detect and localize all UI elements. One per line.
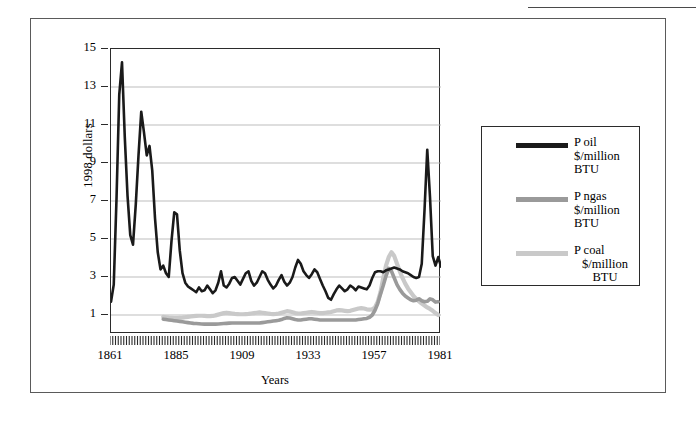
legend-item-ngas: P ngas $/million BTU (490, 191, 636, 235)
x-tick-label-1981: 1981 (417, 348, 463, 363)
legend-swatch-ngas (516, 197, 568, 202)
chart-legend: P oil $/million BTU P ngas $/million BTU… (481, 126, 640, 286)
legend-label-ngas-line2: $/million (574, 204, 636, 218)
legend-label-oil-line2: $/million (574, 150, 636, 164)
x-tick-label-1861: 1861 (87, 348, 133, 363)
y-tick-mark-15 (101, 48, 108, 49)
plot-area (110, 48, 440, 333)
y-tick-mark-11 (101, 124, 108, 125)
legend-label-coal-line1: P coal (574, 244, 636, 258)
legend-label-oil-line3: BTU (574, 163, 636, 177)
legend-label-ngas: P ngas $/million BTU (574, 190, 636, 231)
series-canvas (111, 49, 441, 334)
legend-label-oil-line1: P oil (574, 136, 636, 150)
y-tick-label-5: 5 (70, 230, 96, 245)
legend-label-coal-line2: $/million (574, 258, 636, 272)
legend-label-coal: P coal $/million BTU (574, 244, 636, 285)
page-rule-artifact (528, 7, 696, 8)
y-tick-mark-13 (101, 86, 108, 87)
y-tick-label-11: 11 (70, 116, 96, 131)
series-line-p-oil (111, 62, 441, 301)
x-axis-title: Years (110, 373, 440, 388)
figure-page: 1998 dollars 13579111315 186118851909193… (0, 0, 696, 421)
y-tick-label-3: 3 (70, 268, 96, 283)
y-tick-label-13: 13 (70, 78, 96, 93)
legend-swatch-coal (516, 251, 568, 256)
x-axis-minor-ticks (110, 333, 440, 344)
x-tick-label-1909: 1909 (219, 348, 265, 363)
y-tick-mark-9 (101, 162, 108, 163)
x-tick-label-1885: 1885 (153, 348, 199, 363)
y-tick-mark-5 (101, 238, 108, 239)
legend-label-oil: P oil $/million BTU (574, 136, 636, 177)
y-tick-label-15: 15 (70, 40, 96, 55)
y-tick-mark-3 (101, 276, 108, 277)
y-tick-mark-1 (101, 314, 108, 315)
y-tick-label-7: 7 (70, 192, 96, 207)
legend-item-coal: P coal $/million BTU (490, 245, 636, 289)
y-tick-label-9: 9 (70, 154, 96, 169)
chart-container: 1998 dollars 13579111315 186118851909193… (34, 28, 464, 383)
y-tick-mark-7 (101, 200, 108, 201)
legend-swatch-oil (516, 143, 568, 148)
legend-label-coal-line3: BTU (574, 271, 636, 285)
legend-label-ngas-line3: BTU (574, 217, 636, 231)
x-tick-label-1933: 1933 (285, 348, 331, 363)
x-tick-label-1957: 1957 (351, 348, 397, 363)
legend-label-ngas-line1: P ngas (574, 190, 636, 204)
y-tick-label-1: 1 (70, 306, 96, 321)
legend-item-oil: P oil $/million BTU (490, 137, 636, 181)
